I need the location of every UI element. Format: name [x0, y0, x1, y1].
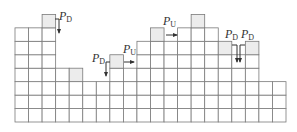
grid-cell	[205, 68, 219, 81]
grid-cell	[29, 55, 43, 68]
grid-cell	[245, 68, 259, 81]
grid-cell	[15, 28, 29, 41]
grid-cell	[164, 68, 178, 81]
grid-cell	[83, 82, 97, 95]
grid-cell	[178, 28, 192, 41]
grid-cell	[232, 55, 246, 68]
grid-cell	[232, 82, 246, 95]
grid-cell	[272, 95, 286, 108]
grid-cell	[232, 68, 246, 81]
grid-cell	[191, 109, 205, 122]
grid-cell	[245, 109, 259, 122]
grid-cell	[218, 95, 232, 108]
shaded-top-cell	[42, 14, 56, 27]
grid-cell	[42, 55, 56, 68]
grid-cell	[245, 82, 259, 95]
grid-cell	[205, 95, 219, 108]
label-pd-2: PD	[92, 52, 105, 66]
grid-cell	[137, 109, 151, 122]
shaded-top-cell	[218, 41, 232, 54]
grid-cell	[164, 109, 178, 122]
grid-cell	[96, 95, 110, 108]
grid-cell	[42, 68, 56, 81]
grid-cell	[110, 109, 124, 122]
grid-cell	[178, 95, 192, 108]
label-pd-4: PD	[241, 28, 254, 42]
grid-cell	[83, 95, 97, 108]
grid-cell	[218, 55, 232, 68]
grid-cell	[42, 41, 56, 54]
label-pd-3: PD	[225, 28, 238, 42]
arrowhead-icon	[57, 29, 61, 34]
grid-cell	[272, 109, 286, 122]
grid-cell	[164, 95, 178, 108]
grid-cell	[110, 95, 124, 108]
label-pd-1: PD	[59, 10, 72, 24]
grid-cell	[123, 95, 137, 108]
shaded-top-cell	[151, 28, 165, 41]
grid-cell	[29, 68, 43, 81]
grid-cell	[164, 82, 178, 95]
grid-cell	[96, 82, 110, 95]
grid-cell	[110, 82, 124, 95]
arrowhead-icon	[130, 60, 135, 64]
grid-cell	[29, 95, 43, 108]
grid-cell	[56, 109, 70, 122]
shaded-top-cell	[191, 14, 205, 27]
grid-cell	[191, 82, 205, 95]
grid-cell	[178, 68, 192, 81]
grid-cell	[178, 82, 192, 95]
grid-cell	[259, 95, 273, 108]
grid-cell	[245, 55, 259, 68]
grid-cell	[56, 95, 70, 108]
label-subscript: D	[232, 33, 238, 42]
grid-cell	[29, 109, 43, 122]
grid-cell	[56, 82, 70, 95]
grid-cell	[42, 109, 56, 122]
grid-cell	[164, 55, 178, 68]
grid-cell	[191, 95, 205, 108]
grid-cell	[245, 95, 259, 108]
grid-cell	[83, 109, 97, 122]
grid-cell	[151, 82, 165, 95]
grid-cell	[15, 55, 29, 68]
grid-cell	[42, 82, 56, 95]
grid-cell	[191, 28, 205, 41]
arrowhead-icon	[104, 72, 108, 77]
label-subscript: D	[66, 15, 72, 24]
grid-cell	[69, 109, 83, 122]
grid-cell	[151, 68, 165, 81]
grid-cell	[218, 68, 232, 81]
grid-cell	[15, 41, 29, 54]
grid-cell	[259, 109, 273, 122]
grid-cell	[15, 95, 29, 108]
grid-cell	[151, 55, 165, 68]
grid-cell	[123, 68, 137, 81]
label-pu-1: PU	[123, 43, 136, 57]
grid-cell	[151, 109, 165, 122]
grid-cell	[191, 68, 205, 81]
grid-cell	[110, 68, 124, 81]
grid-cell	[205, 41, 219, 54]
grid-cell	[232, 95, 246, 108]
grid-cell	[69, 95, 83, 108]
grid-cell	[205, 109, 219, 122]
grid-cell	[232, 109, 246, 122]
grid-cell	[42, 95, 56, 108]
grid-cell	[137, 82, 151, 95]
grid-cell	[15, 68, 29, 81]
grid-cell	[178, 55, 192, 68]
grid-cell	[178, 109, 192, 122]
grid-cell	[164, 41, 178, 54]
grid-cell	[137, 41, 151, 54]
grid-cell	[69, 82, 83, 95]
shaded-top-cell	[245, 41, 259, 54]
label-subscript: D	[248, 33, 254, 42]
grid-cell	[56, 68, 70, 81]
grid-cell	[205, 28, 219, 41]
label-subscript: U	[130, 48, 136, 57]
grid-cell	[29, 82, 43, 95]
grid-cell	[123, 82, 137, 95]
shaded-top-cell	[69, 68, 83, 81]
grid-cell	[137, 95, 151, 108]
